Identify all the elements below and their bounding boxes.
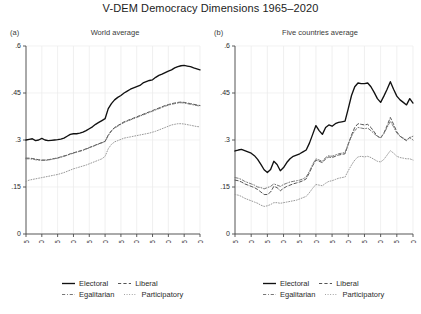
x-tick-label: 1985 xyxy=(86,240,93,243)
y-tick-label: .3 xyxy=(224,136,230,143)
legend-key-participatory-b xyxy=(325,291,338,298)
legend-label-egalitarian-b: Egalitarian xyxy=(280,290,315,299)
x-tick-label: 1970 xyxy=(248,240,255,243)
legend-label-electoral-b: Electoral xyxy=(280,279,309,288)
legend-row-2: Egalitarian Participatory xyxy=(62,289,193,300)
legend-key-egalitarian xyxy=(62,291,75,298)
panel-a-subtitle: World average xyxy=(40,28,190,37)
series-line-participatory xyxy=(26,124,200,182)
series-line-liberal xyxy=(26,102,200,160)
legend-panel-a: Electoral Liberal Egalitarian Participat… xyxy=(62,278,193,300)
x-tick-label: 1995 xyxy=(329,240,336,243)
x-tick-label: 2020 xyxy=(197,240,204,243)
x-tick-label: 2020 xyxy=(410,240,417,243)
legend-item-electoral-b[interactable]: Electoral xyxy=(263,279,309,288)
x-tick-label: 1980 xyxy=(70,240,77,243)
x-tick-label: 1965 xyxy=(23,240,30,243)
x-tick-label: 1980 xyxy=(280,240,287,243)
y-tick-label: .15 xyxy=(11,183,21,190)
x-tick-label: 1975 xyxy=(54,240,61,243)
legend-key-participatory xyxy=(124,291,137,298)
legend-row-1-b: Electoral Liberal xyxy=(263,278,394,289)
x-tick-label: 2015 xyxy=(393,240,400,243)
panel-a-tag: (a) xyxy=(10,28,19,37)
panel-b-tag: (b) xyxy=(214,28,223,37)
panel-b-subtitle: Five countries average xyxy=(240,28,400,37)
x-tick-label: 2000 xyxy=(345,240,352,243)
legend-key-egalitarian-b xyxy=(263,291,276,298)
x-tick-label: 2005 xyxy=(361,240,368,243)
x-tick-label: 2010 xyxy=(377,240,384,243)
legend-key-electoral-b xyxy=(263,280,276,287)
legend-label-egalitarian: Egalitarian xyxy=(79,290,114,299)
legend-item-egalitarian-b[interactable]: Egalitarian xyxy=(263,290,315,299)
plot-a-canvas: 0.15.3.45.619651970197519801985199019952… xyxy=(0,38,205,243)
legend-label-participatory: Participatory xyxy=(141,290,183,299)
y-tick-label: 0 xyxy=(17,230,21,237)
x-tick-label: 2015 xyxy=(181,240,188,243)
y-tick-label: .6 xyxy=(224,42,230,49)
x-tick-label: 1990 xyxy=(102,240,109,243)
y-tick-label: .15 xyxy=(220,183,230,190)
x-tick-label: 1985 xyxy=(296,240,303,243)
legend-item-liberal[interactable]: Liberal xyxy=(118,279,158,288)
legend-label-participatory-b: Participatory xyxy=(342,290,384,299)
y-tick-label: .45 xyxy=(11,89,21,96)
legend-row-2-b: Egalitarian Participatory xyxy=(263,289,394,300)
legend-item-liberal-b[interactable]: Liberal xyxy=(319,279,359,288)
y-tick-label: .6 xyxy=(15,42,21,49)
y-tick-label: .45 xyxy=(220,89,230,96)
legend-panel-b: Electoral Liberal Egalitarian Participat… xyxy=(263,278,394,300)
series-line-egalitarian xyxy=(26,103,200,161)
legend-key-liberal xyxy=(118,280,131,287)
legend-item-egalitarian[interactable]: Egalitarian xyxy=(62,290,114,299)
legend-label-electoral: Electoral xyxy=(79,279,108,288)
x-tick-label: 1995 xyxy=(118,240,125,243)
legend-key-liberal-b xyxy=(319,280,332,287)
page-title: V-DEM Democracy Dimensions 1965–2020 xyxy=(0,2,421,14)
legend-row-1: Electoral Liberal xyxy=(62,278,193,289)
x-tick-label: 2000 xyxy=(133,240,140,243)
legend-label-liberal: Liberal xyxy=(135,279,158,288)
legend-item-electoral[interactable]: Electoral xyxy=(62,279,108,288)
x-tick-label: 1990 xyxy=(313,240,320,243)
x-tick-label: 2010 xyxy=(165,240,172,243)
y-tick-label: 0 xyxy=(226,230,230,237)
figure: V-DEM Democracy Dimensions 1965–2020 (a)… xyxy=(0,0,421,314)
x-tick-label: 1970 xyxy=(38,240,45,243)
x-tick-label: 1975 xyxy=(264,240,271,243)
legend-item-participatory[interactable]: Participatory xyxy=(124,290,183,299)
x-tick-label: 1965 xyxy=(232,240,239,243)
plot-b-canvas: 0.15.3.45.619651970197519801985199019952… xyxy=(205,38,421,243)
plot-panel-a: 0.15.3.45.619651970197519801985199019952… xyxy=(0,38,205,243)
legend-label-liberal-b: Liberal xyxy=(336,279,359,288)
y-tick-label: .3 xyxy=(15,136,21,143)
plot-panel-b: 0.15.3.45.619651970197519801985199019952… xyxy=(205,38,421,243)
legend-item-participatory-b[interactable]: Participatory xyxy=(325,290,384,299)
x-tick-label: 2005 xyxy=(149,240,156,243)
legend-key-electoral xyxy=(62,280,75,287)
